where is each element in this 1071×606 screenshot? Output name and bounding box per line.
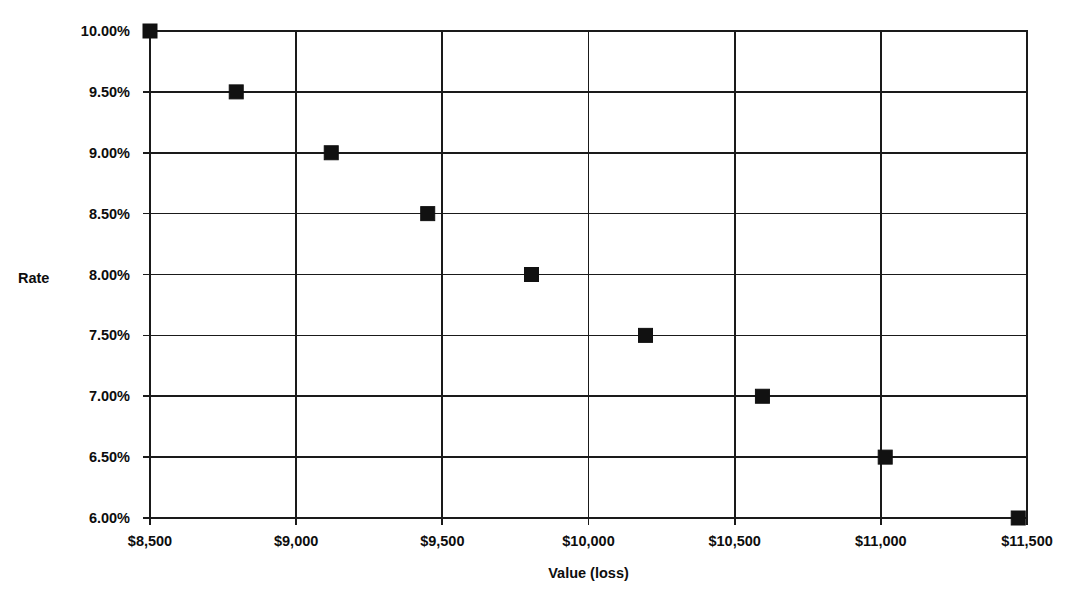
data-point-marker bbox=[639, 328, 653, 342]
data-point-marker bbox=[421, 207, 435, 221]
x-tick-label: $9,500 bbox=[420, 533, 464, 549]
x-axis-title: Value (loss) bbox=[548, 565, 629, 581]
y-tick-label: 8.50% bbox=[89, 206, 130, 222]
y-axis-tick-labels: 10.00%9.50%9.00%8.50%8.00%7.50%7.00%6.50… bbox=[81, 23, 130, 526]
y-tick-label: 6.00% bbox=[89, 510, 130, 526]
data-point-marker bbox=[324, 146, 338, 160]
y-tick-label: 9.50% bbox=[89, 84, 130, 100]
plot-svg: 10.00%9.50%9.00%8.50%8.00%7.50%7.00%6.50… bbox=[0, 0, 1071, 606]
x-tick-label: $10,000 bbox=[562, 533, 614, 549]
x-tick-label: $10,500 bbox=[708, 533, 760, 549]
data-point-marker bbox=[524, 268, 538, 282]
scatter-chart: 10.00%9.50%9.00%8.50%8.00%7.50%7.00%6.50… bbox=[0, 0, 1071, 606]
x-tick-label: $8,500 bbox=[128, 533, 172, 549]
x-tick-label: $9,000 bbox=[274, 533, 318, 549]
data-point-marker bbox=[143, 24, 157, 38]
x-axis-tick-labels: $8,500$9,000$9,500$10,000$10,500$11,000$… bbox=[128, 533, 1053, 549]
x-tick-label: $11,500 bbox=[1001, 533, 1053, 549]
y-tick-label: 8.00% bbox=[89, 267, 130, 283]
data-point-marker bbox=[878, 450, 892, 464]
data-point-marker bbox=[1011, 511, 1025, 525]
y-tick-label: 7.00% bbox=[89, 388, 130, 404]
x-tick-label: $11,000 bbox=[855, 533, 907, 549]
data-point-marker bbox=[229, 85, 243, 99]
y-tick-label: 6.50% bbox=[89, 449, 130, 465]
y-tick-label: 10.00% bbox=[81, 23, 130, 39]
y-axis-title: Rate bbox=[18, 270, 49, 286]
y-tick-label: 9.00% bbox=[89, 145, 130, 161]
data-point-marker bbox=[755, 389, 769, 403]
y-tick-label: 7.50% bbox=[89, 327, 130, 343]
